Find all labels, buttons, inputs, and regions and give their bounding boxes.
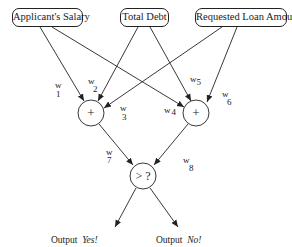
input-label-total-debt: Total Debt [122,11,166,22]
connection-lines [0,0,292,247]
weight-w4: w4 [164,106,175,115]
input-node-total-debt: Total Debt [120,8,169,27]
input-node-loan-amount: Requested Loan Amount [195,8,287,27]
output-yes: Output Yes! [51,235,98,245]
sum-operator-right: + [183,105,209,121]
weight-w5: w5 [190,75,201,84]
input-node-salary: Applicant's Salary [12,8,83,27]
output-no-value: No! [187,235,201,245]
weight-w8: w8 [183,156,190,174]
weight-w3: w3 [120,104,127,122]
sum-operator-left: + [78,105,104,121]
output-yes-value: Yes! [82,235,98,245]
compare-operator: > ? [130,168,156,184]
weight-w2: w2 [88,77,95,95]
output-no: Output No! [156,235,201,245]
input-label-salary: Applicant's Salary [13,11,90,22]
input-label-loan-amount: Requested Loan Amount [196,11,292,22]
weight-w6: w6 [222,90,229,108]
weight-w7: w7 [106,148,113,166]
weight-w1: w1 [55,81,62,99]
